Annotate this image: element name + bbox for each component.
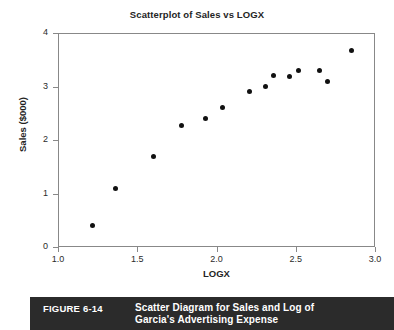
scatter-points-layer xyxy=(58,33,375,247)
plot-area xyxy=(58,33,375,247)
data-point xyxy=(287,74,292,79)
figure-number-label: FIGURE 6-14 xyxy=(43,303,103,314)
data-point xyxy=(349,48,354,53)
data-point xyxy=(220,105,225,110)
data-point xyxy=(179,123,184,128)
figure-caption-line-1: Scatter Diagram for Sales and Log of xyxy=(135,302,385,314)
data-point xyxy=(325,79,330,84)
data-point xyxy=(296,68,301,73)
y-axis-tick-label: 4 xyxy=(28,27,48,37)
x-axis-tick-mark xyxy=(58,247,59,252)
x-axis-tick-mark xyxy=(217,247,218,252)
y-axis-tick-label: 0 xyxy=(28,241,48,251)
figure-container: Scatterplot of Sales vs LOGX 1.01.52.02.… xyxy=(0,0,394,330)
x-axis-tick-mark xyxy=(137,247,138,252)
data-point xyxy=(203,116,208,121)
y-axis-tick-mark xyxy=(53,247,58,248)
y-axis-tick-label: 1 xyxy=(28,188,48,198)
data-point xyxy=(90,223,95,228)
data-point xyxy=(247,89,252,94)
y-axis-tick-mark xyxy=(53,87,58,88)
figure-caption-line-2: Garcia's Advertising Expense xyxy=(135,314,385,326)
y-axis-tick-mark xyxy=(53,194,58,195)
y-axis-tick-label: 3 xyxy=(28,81,48,91)
x-axis-tick-label: 1.0 xyxy=(38,254,78,264)
y-axis-tick-label: 2 xyxy=(28,134,48,144)
data-point xyxy=(151,154,156,159)
x-axis-tick-label: 2.5 xyxy=(276,254,316,264)
y-axis-title: Sales ($000) xyxy=(17,75,28,175)
x-axis-tick-label: 2.0 xyxy=(197,254,237,264)
data-point xyxy=(271,73,276,78)
data-point xyxy=(113,186,118,191)
y-axis-tick-mark xyxy=(53,33,58,34)
x-axis-tick-mark xyxy=(375,247,376,252)
data-point xyxy=(317,68,322,73)
figure-caption-bar: FIGURE 6-14 Scatter Diagram for Sales an… xyxy=(30,297,394,330)
x-axis-title: LOGX xyxy=(58,268,375,279)
x-axis-tick-label: 1.5 xyxy=(117,254,157,264)
x-axis-tick-mark xyxy=(296,247,297,252)
chart-title: Scatterplot of Sales vs LOGX xyxy=(0,9,394,20)
data-point xyxy=(263,84,268,89)
x-axis-tick-label: 3.0 xyxy=(355,254,394,264)
y-axis-tick-mark xyxy=(53,140,58,141)
figure-caption-text: Scatter Diagram for Sales and Log of Gar… xyxy=(135,302,385,325)
